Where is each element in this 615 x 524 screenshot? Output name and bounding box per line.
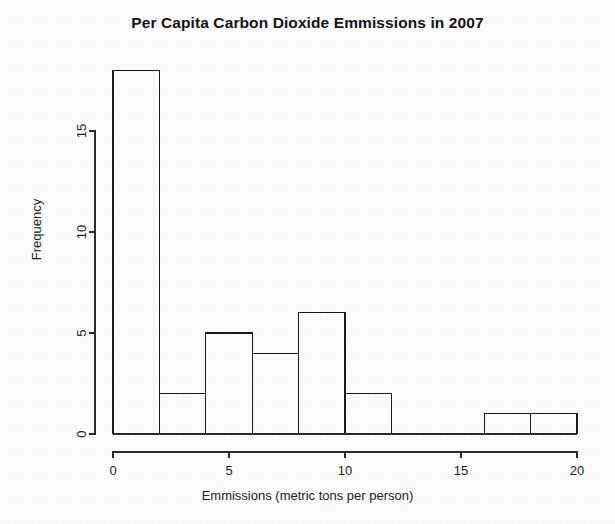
x-tick-label: 15 <box>454 463 468 478</box>
y-axis-label: Frequency <box>29 170 44 290</box>
y-axis-line <box>89 131 95 434</box>
axes-group <box>89 131 577 458</box>
y-tick-label: 5 <box>74 329 89 336</box>
bars-group <box>113 70 577 434</box>
tick-labels-group: 05101520051015 <box>74 124 585 478</box>
x-tick-label: 0 <box>109 463 116 478</box>
histogram-figure: Per Capita Carbon Dioxide Emmissions in … <box>0 0 615 524</box>
y-tick-label: 0 <box>74 430 89 437</box>
x-tick-label: 10 <box>338 463 352 478</box>
plot-area: 05101520051015 <box>0 0 615 524</box>
y-tick-label: 15 <box>74 124 89 138</box>
plot-svg: 05101520051015 <box>0 0 615 524</box>
histogram-outline <box>113 70 577 434</box>
y-tick-label: 10 <box>74 225 89 239</box>
x-tick-label: 5 <box>225 463 232 478</box>
x-tick-label: 20 <box>570 463 584 478</box>
x-axis-label: Emmissions (metric tons per person) <box>0 488 615 503</box>
